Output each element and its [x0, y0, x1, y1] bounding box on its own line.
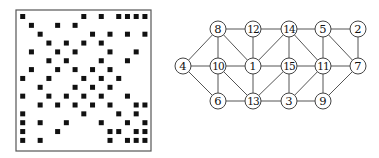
graph-node-2: 2 — [350, 21, 366, 37]
matrix-cell-filled — [73, 85, 78, 90]
graph-node-6: 6 — [210, 93, 226, 109]
matrix-cell-filled — [20, 14, 25, 19]
graph-node-5: 5 — [315, 21, 331, 37]
node-label: 8 — [214, 22, 221, 36]
graph-node-1: 1 — [245, 58, 261, 74]
matrix-cell-filled — [125, 94, 130, 99]
matrix-cell-filled — [116, 14, 121, 19]
matrix-cell-filled — [125, 138, 130, 143]
matrix-cell-filled — [29, 67, 34, 72]
matrix-cell-filled — [38, 32, 43, 37]
matrix-cell-filled — [46, 94, 51, 99]
matrix-cell-filled — [64, 41, 69, 46]
matrix-cell-filled — [46, 41, 51, 46]
matrix-cell-filled — [81, 94, 86, 99]
matrix-cell-filled — [142, 103, 147, 108]
matrix-cell-filled — [29, 49, 34, 54]
matrix-cell-filled — [20, 94, 25, 99]
matrix-cell-filled — [81, 14, 86, 19]
node-label: 7 — [354, 59, 361, 73]
graph-node-12: 12 — [245, 21, 261, 37]
node-label: 11 — [317, 60, 329, 72]
node-label: 5 — [319, 22, 326, 36]
matrix-cell-filled — [55, 129, 60, 134]
matrix-cell-filled — [108, 103, 113, 108]
matrix-cell-filled — [55, 23, 60, 28]
matrix-cell-filled — [108, 32, 113, 37]
graph-node-9: 9 — [315, 93, 331, 109]
matrix-cell-filled — [142, 120, 147, 125]
matrix-cell-filled — [99, 120, 104, 125]
graph-node-13: 13 — [245, 93, 261, 109]
matrix-cell-filled — [38, 103, 43, 108]
matrix-cell-filled — [108, 67, 113, 72]
matrix-cell-filled — [64, 120, 69, 125]
matrix-cell-filled — [99, 94, 104, 99]
matrix-cell-filled — [108, 138, 113, 143]
matrix-cell-filled — [81, 76, 86, 81]
matrix-cell-filled — [108, 49, 113, 54]
matrix-cell-filled — [73, 49, 78, 54]
node-label: 12 — [247, 23, 259, 35]
adjacency-matrix-panel — [0, 0, 170, 158]
matrix-cell-filled — [142, 14, 147, 19]
matrix-cell-filled — [134, 14, 139, 19]
matrix-cell-filled — [99, 14, 104, 19]
matrix-cell-filled — [134, 49, 139, 54]
matrix-cell-filled — [90, 32, 95, 37]
node-label: 14 — [283, 23, 296, 35]
graph-node-14: 14 — [281, 21, 297, 37]
matrix-cell-filled — [73, 67, 78, 72]
matrix-cell-filled — [90, 85, 95, 90]
matrix-cell-filled — [20, 120, 25, 125]
matrix-cell-filled — [38, 120, 43, 125]
graph-node-10: 10 — [210, 58, 226, 74]
graph-node-4: 4 — [175, 58, 191, 74]
matrix-cell-filled — [55, 103, 60, 108]
graph-node-11: 11 — [315, 58, 331, 74]
matrix-cell-filled — [99, 41, 104, 46]
matrix-cell-filled — [108, 85, 113, 90]
matrix-cell-filled — [125, 58, 130, 63]
matrix-cell-filled — [142, 129, 147, 134]
matrix-cell-filled — [20, 129, 25, 134]
matrix-cell-filled — [46, 58, 51, 63]
node-label: 2 — [354, 22, 361, 36]
graph-node-15: 15 — [281, 58, 297, 74]
node-label: 15 — [283, 60, 295, 72]
matrix-cell-filled — [29, 23, 34, 28]
node-label: 1 — [249, 59, 256, 73]
matrix-cell-filled — [125, 120, 130, 125]
matrix-cell-filled — [116, 129, 121, 134]
matrix-cell-filled — [134, 111, 139, 116]
matrix-cell-filled — [81, 41, 86, 46]
matrix-cell-filled — [134, 138, 139, 143]
matrix-cell-filled — [38, 138, 43, 143]
matrix-cell-filled — [81, 111, 86, 116]
graph-node-7: 7 — [350, 58, 366, 74]
matrix-cell-filled — [20, 111, 25, 116]
graph-node-8: 8 — [210, 21, 226, 37]
matrix-cell-filled — [125, 14, 130, 19]
matrix-cell-filled — [20, 138, 25, 143]
matrix-cell-filled — [64, 94, 69, 99]
graph-panel: 812145241011511761339 — [170, 0, 379, 158]
matrix-cell-filled — [125, 32, 130, 37]
matrix-cell-filled — [38, 85, 43, 90]
matrix-cell-filled — [108, 129, 113, 134]
matrix-cell-filled — [134, 103, 139, 108]
matrix-cell-filled — [55, 49, 60, 54]
matrix-cell-filled — [99, 58, 104, 63]
adjacency-matrix — [0, 0, 170, 158]
matrix-cell-filled — [90, 67, 95, 72]
node-label: 3 — [285, 94, 292, 108]
matrix-cell-filled — [142, 138, 147, 143]
matrix-cell-filled — [55, 67, 60, 72]
matrix-cell-filled — [20, 76, 25, 81]
node-label: 10 — [212, 60, 224, 72]
node-label: 6 — [214, 94, 221, 108]
matrix-cell-filled — [142, 32, 147, 37]
matrix-cell-filled — [73, 23, 78, 28]
matrix-cell-filled — [116, 111, 121, 116]
matrix-cell-filled — [90, 103, 95, 108]
